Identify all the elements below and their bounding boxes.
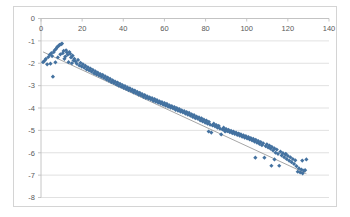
y-axis-tick-label: -5 — [28, 126, 35, 135]
data-point — [262, 156, 266, 160]
y-axis-tick-label: -1 — [28, 37, 35, 46]
x-axis-labels: 020406080100120140 — [39, 24, 335, 33]
x-axis-tick-label: 80 — [201, 24, 209, 33]
y-axis-labels: 0-1-2-3-4-5-6-7-8 — [28, 14, 35, 202]
chart-frame: 0-1-2-3-4-5-6-7-8 020406080100120140 — [13, 6, 337, 207]
data-point — [51, 75, 55, 79]
y-axis-tick-label: -6 — [28, 149, 35, 158]
data-point — [277, 164, 281, 168]
x-axis-tick-label: 0 — [39, 24, 43, 33]
trendline-segment — [43, 52, 306, 174]
x-axis-tick-label: 40 — [119, 24, 127, 33]
data-point — [300, 158, 304, 162]
data-point — [269, 164, 273, 168]
x-axis-tick-label: 100 — [240, 24, 253, 33]
x-axis-tick-label: 120 — [282, 24, 295, 33]
y-axis-tick-label: -3 — [28, 81, 35, 90]
y-axis-tick-label: -2 — [28, 59, 35, 68]
scatter-chart: 0-1-2-3-4-5-6-7-8 020406080100120140 — [14, 7, 336, 206]
y-axis-tick-label: -8 — [28, 193, 35, 202]
x-axis-tick-label: 20 — [78, 24, 86, 33]
y-axis-tick-label: -7 — [28, 171, 35, 180]
x-axis-tick-label: 140 — [323, 24, 336, 33]
data-point — [219, 132, 223, 136]
data-point — [304, 157, 308, 161]
trendline — [43, 52, 306, 174]
x-axis-tick-label: 60 — [160, 24, 168, 33]
data-point — [253, 156, 257, 160]
data-point — [56, 55, 60, 59]
y-axis-tick-label: 0 — [31, 14, 35, 23]
chart-canvas: 0-1-2-3-4-5-6-7-8 020406080100120140 — [14, 7, 338, 208]
data-points — [41, 41, 309, 175]
data-point — [53, 60, 57, 64]
data-point — [48, 62, 52, 66]
y-axis-tick-label: -4 — [28, 104, 35, 113]
gridlines — [41, 19, 329, 198]
